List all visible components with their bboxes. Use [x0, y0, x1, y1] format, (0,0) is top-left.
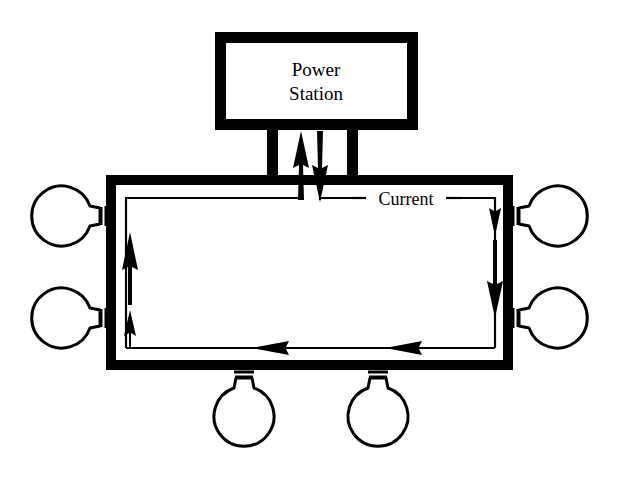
- circuit-diagram-canvas: Power Station: [0, 0, 622, 486]
- current-path-right: [462, 198, 495, 348]
- current-label: Current: [379, 189, 434, 209]
- arrow-right-lower: [487, 240, 503, 318]
- bulb-left-lower: [32, 288, 111, 348]
- arrow-bottom-left: [252, 341, 322, 355]
- arrow-left-upper: [122, 232, 138, 305]
- current-path-top-right: [320, 198, 352, 200]
- power-station-label-line1: Power: [292, 59, 341, 80]
- bulb-right-upper: [508, 186, 587, 246]
- arrow-feed-up: [293, 131, 309, 200]
- power-station: Power Station: [221, 38, 413, 125]
- arrow-return-down: [312, 131, 328, 202]
- bulb-bottom-right: [348, 367, 408, 446]
- main-circuit-loop: [111, 180, 508, 365]
- bulb-right-lower: [508, 288, 587, 348]
- current-annotation: Current: [352, 189, 462, 209]
- bulb-bottom-left: [214, 367, 274, 446]
- arrow-bottom-right: [385, 341, 448, 355]
- right-feeder: [347, 126, 358, 182]
- arrow-right-upper: [489, 198, 501, 236]
- power-station-box: [221, 38, 413, 125]
- current-path-top-left: [126, 198, 301, 348]
- flow-arrows: [122, 131, 503, 355]
- power-station-label-line2: Station: [289, 83, 343, 104]
- bulb-left-upper: [32, 186, 111, 246]
- current-flow-path: [126, 198, 495, 348]
- left-feeder: [267, 126, 278, 182]
- feeder-legs: [267, 126, 358, 182]
- circuit-diagram: Power Station: [0, 0, 622, 486]
